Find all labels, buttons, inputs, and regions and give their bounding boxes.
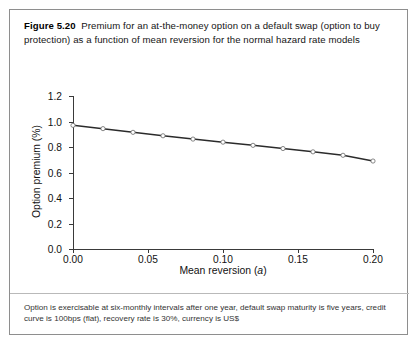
x-tick [148, 249, 149, 253]
data-point-marker [131, 130, 135, 134]
y-tick-label: 0.6 [48, 167, 62, 178]
footnote-divider [10, 293, 409, 294]
x-tick [73, 249, 74, 253]
data-point-marker [191, 137, 195, 141]
y-tick-label: 1.0 [48, 116, 62, 127]
data-point-marker [251, 143, 255, 147]
x-tick [373, 249, 374, 253]
data-point-marker [311, 150, 315, 154]
y-tick-label: 1.2 [48, 91, 62, 102]
plot-canvas: 0.00.20.40.60.81.01.2 0.000.050.100.150.… [73, 96, 373, 249]
data-point-marker [341, 153, 345, 157]
data-point-marker [371, 159, 375, 163]
x-tick [223, 249, 224, 253]
x-axis-label-suffix: ) [263, 265, 266, 276]
chart-area: Option premium (%) 0.00.20.40.60.81.01.2… [10, 70, 409, 288]
x-tick [298, 249, 299, 253]
x-tick-label: 0.05 [138, 254, 158, 265]
y-tick-label: 0.8 [48, 142, 62, 153]
figure-label: Figure 5.20 [24, 20, 76, 31]
y-tick-label: 0.0 [48, 244, 62, 255]
x-axis-label-prefix: Mean reversion ( [179, 265, 257, 276]
y-tick-label: 0.4 [48, 193, 62, 204]
y-axis-label: Option premium (%) [31, 102, 42, 242]
x-tick-label: 0.00 [63, 254, 83, 265]
x-axis-label: Mean reversion (a) [73, 265, 373, 276]
data-point-marker [71, 123, 75, 127]
data-series-line [73, 96, 373, 249]
data-point-marker [101, 127, 105, 131]
figure-caption: Figure 5.20 Premium for an at-the-money … [24, 19, 396, 47]
x-tick-label: 0.15 [288, 254, 308, 265]
data-point-marker [161, 134, 165, 138]
data-point-marker [281, 146, 285, 150]
y-tick-label: 0.2 [48, 218, 62, 229]
data-point-marker [221, 140, 225, 144]
figure-footnote: Option is exercisable at six-monthly int… [24, 302, 396, 325]
x-tick-label: 0.20 [363, 254, 383, 265]
x-tick-label: 0.10 [213, 254, 233, 265]
figure-container: Figure 5.20 Premium for an at-the-money … [9, 9, 408, 335]
